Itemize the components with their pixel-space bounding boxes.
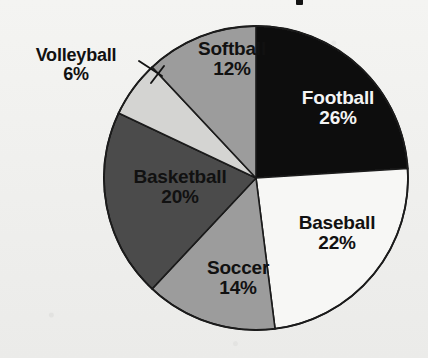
- slice-label-softball-value: 12%: [179, 59, 285, 79]
- slice-label-volleyball-value: 6%: [4, 65, 148, 84]
- slice-label-basketball: Basketball 20%: [108, 167, 252, 207]
- slice-label-basketball-name: Basketball: [108, 167, 252, 187]
- slice-label-baseball-value: 22%: [278, 233, 396, 253]
- pie-chart: Football 26% Baseball 22% Soccer 14% Bas…: [0, 0, 428, 358]
- slice-label-basketball-value: 20%: [108, 187, 252, 207]
- slice-label-softball: Softball 12%: [179, 39, 285, 79]
- slice-label-football-value: 26%: [279, 108, 397, 128]
- slice-label-soccer-value: 14%: [186, 278, 290, 298]
- slice-label-volleyball-name: Volleyball: [4, 46, 148, 65]
- slice-label-football-name: Football: [279, 88, 397, 108]
- slice-label-softball-name: Softball: [179, 39, 285, 59]
- slice-label-baseball: Baseball 22%: [278, 213, 396, 253]
- slice-label-soccer-name: Soccer: [186, 258, 290, 278]
- slice-label-football: Football 26%: [279, 88, 397, 128]
- slice-label-baseball-name: Baseball: [278, 213, 396, 233]
- slice-label-soccer: Soccer 14%: [186, 258, 290, 298]
- slice-label-volleyball: Volleyball 6%: [4, 46, 148, 83]
